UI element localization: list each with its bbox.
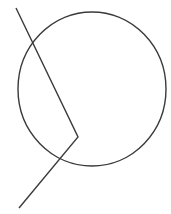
diagram-canvas <box>0 0 171 214</box>
bent-line-shape <box>16 8 78 208</box>
circle-shape <box>18 12 166 166</box>
